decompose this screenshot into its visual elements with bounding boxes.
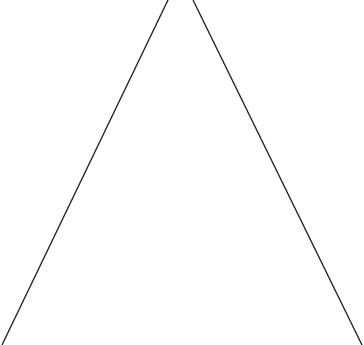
diagram-canvas <box>0 0 364 345</box>
triangle-right-edge <box>193 0 362 345</box>
triangle-diagram <box>0 0 364 345</box>
triangle-left-edge <box>2 0 168 345</box>
